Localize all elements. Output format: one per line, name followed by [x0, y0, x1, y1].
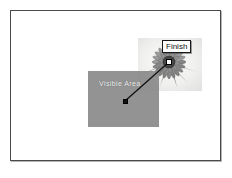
end-marker[interactable] [166, 59, 172, 65]
screenshot-canvas: Visible Area Finish [0, 0, 232, 178]
finish-callout-label[interactable]: Finish [162, 40, 191, 53]
visible-area-label: Visible Area [99, 80, 141, 87]
slide-frame: Visible Area Finish [10, 10, 221, 161]
start-marker[interactable] [123, 99, 128, 104]
